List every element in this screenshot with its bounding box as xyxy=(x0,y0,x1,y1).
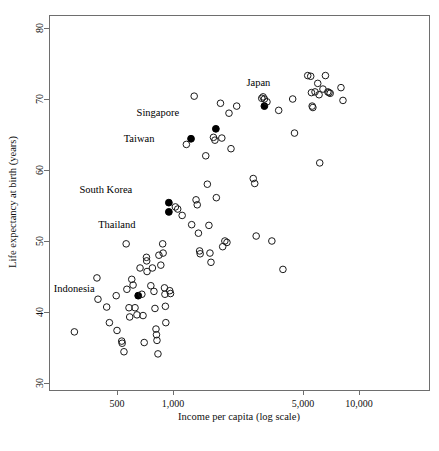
point-label-south-korea: South Korea xyxy=(79,184,132,195)
scatter-plot-figure: 5001,0005,00010,000 304050607080 JapanSi… xyxy=(0,0,439,451)
y-tick-label: 70 xyxy=(34,94,45,104)
x-tick-label: 500 xyxy=(110,398,125,409)
point-label-singapore: Singapore xyxy=(137,107,180,118)
y-tick-label: 40 xyxy=(34,307,45,317)
highlighted-data-point xyxy=(165,199,172,206)
highlighted-data-point xyxy=(165,208,172,215)
x-tick-label: 10,000 xyxy=(345,398,373,409)
y-tick-label: 80 xyxy=(34,23,45,33)
x-axis-title: Income per capita (log scale) xyxy=(178,411,300,423)
point-label-thailand: Thailand xyxy=(98,219,136,230)
y-axis-title: Life expectancy at birth (years) xyxy=(7,136,19,268)
y-tick-label: 30 xyxy=(34,378,45,388)
y-tick-label: 60 xyxy=(34,165,45,175)
y-tick-label: 50 xyxy=(34,236,45,246)
x-tick-label: 1,000 xyxy=(162,398,185,409)
x-tick-label: 5,000 xyxy=(292,398,315,409)
point-label-taiwan: Taiwan xyxy=(124,133,156,144)
plot-background xyxy=(0,0,439,451)
point-label-indonesia: Indonesia xyxy=(54,283,95,294)
plot-canvas: 5001,0005,00010,000 304050607080 JapanSi… xyxy=(0,0,439,451)
point-label-japan: Japan xyxy=(246,77,271,88)
highlighted-data-point xyxy=(212,125,219,132)
highlighted-data-point xyxy=(188,135,195,142)
